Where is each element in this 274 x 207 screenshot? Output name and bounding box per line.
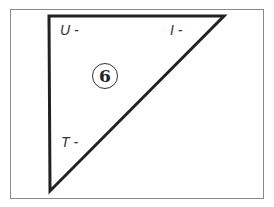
circled-number-badge: 6 xyxy=(92,63,118,89)
label-t: T - xyxy=(61,135,78,149)
label-u: U - xyxy=(60,23,79,37)
label-i: I - xyxy=(170,23,182,37)
triangle-shape xyxy=(49,16,224,191)
triangle-diagram xyxy=(0,0,274,207)
badge-number: 6 xyxy=(99,66,111,86)
